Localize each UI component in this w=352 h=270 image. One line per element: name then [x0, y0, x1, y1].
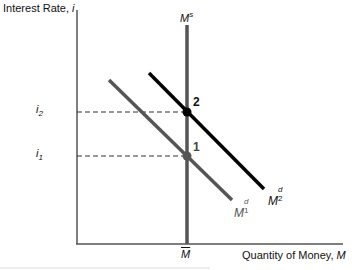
equilibrium-point-1: [183, 152, 192, 161]
supply-curve-label: Ms: [180, 10, 193, 24]
rate-label-i2: i2: [36, 103, 43, 118]
demand-curve-1-label: Md1: [234, 203, 252, 220]
y-axis-label: Interest Rate, i: [3, 2, 75, 14]
x-axis-label: Quantity of Money, M: [242, 249, 346, 261]
rate-label-i1: i1: [36, 147, 43, 162]
point-2-label: 2: [193, 95, 200, 109]
demand-curve-2-label: Md2: [268, 191, 286, 208]
money-demand-curve-2: [149, 73, 264, 189]
money-market-diagram: [0, 0, 352, 270]
equilibrium-point-2: [183, 108, 192, 117]
point-1-label: 1: [193, 140, 200, 154]
fixed-money-supply-label: M: [181, 248, 190, 260]
